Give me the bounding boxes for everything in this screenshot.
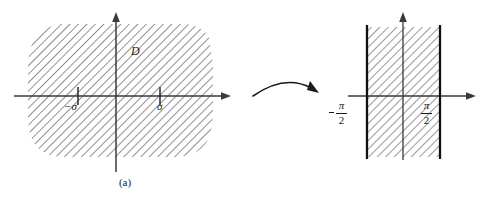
minus-sign-icon xyxy=(329,112,334,113)
positive-pi-over-two-fraction: π 2 xyxy=(421,100,432,126)
axis-label-negative-sigma: −σ xyxy=(64,101,77,112)
panel-a-y-axis-arrowhead xyxy=(112,12,120,22)
boundary-label-negative-pi-over-two: π 2 xyxy=(329,100,347,126)
positive-pi-denominator: 2 xyxy=(424,115,430,127)
axis-label-positive-sigma: σ xyxy=(157,101,162,112)
panel-a: D −σ σ (a) xyxy=(0,0,245,198)
panel-b: arcsin ( z σ ) xyxy=(245,0,485,198)
panel-a-graphic xyxy=(0,0,245,198)
domain-label-D: D xyxy=(131,45,140,57)
negative-pi-numerator: π xyxy=(339,100,345,112)
panel-b-x-axis-arrowhead xyxy=(466,92,476,100)
panel-b-y-axis-arrowhead xyxy=(399,12,407,22)
negative-pi-over-two-fraction: π 2 xyxy=(336,100,347,126)
mapping-arrow-head xyxy=(307,81,319,93)
boundary-label-positive-pi-over-two: π 2 xyxy=(421,100,432,126)
panel-b-graphic xyxy=(245,0,485,198)
negative-pi-denominator: 2 xyxy=(339,115,345,127)
panel-a-caption: (a) xyxy=(95,176,155,188)
panel-a-x-axis-arrowhead xyxy=(221,92,231,100)
mapping-arrow-curve xyxy=(253,83,311,96)
figure-container: D −σ σ (a) arcsin ( z σ ) xyxy=(0,0,485,198)
domain-region-fill xyxy=(28,24,213,157)
positive-pi-numerator: π xyxy=(424,100,430,112)
